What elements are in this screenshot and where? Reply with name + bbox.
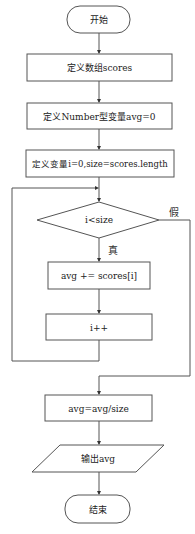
arrowhead	[97, 146, 101, 150]
node-define-vars: 定义变量i=0,size=scores.length	[26, 150, 174, 177]
arrowhead	[97, 391, 101, 395]
node-end: 结束	[65, 495, 130, 523]
flowchart: 开始 定义数组scores 定义Number型变量avg=0 定义变量i=0,s…	[0, 0, 195, 534]
start-label: 开始	[90, 14, 108, 25]
arrowhead	[95, 186, 99, 190]
arrowhead	[97, 491, 101, 495]
arrowhead	[97, 198, 101, 202]
node-output: 输出avg	[32, 445, 164, 472]
node-define-array: 定义数组scores	[27, 54, 172, 81]
output-label: 输出avg	[81, 453, 115, 464]
define-array-label: 定义数组scores	[67, 62, 133, 73]
arrowhead	[97, 441, 101, 445]
arrowhead	[97, 50, 101, 54]
compute-avg-label: avg=avg/size	[68, 404, 129, 414]
node-accumulate: avg += scores[i]	[48, 262, 150, 289]
define-avg-label: 定义Number型变量avg=0	[43, 111, 155, 122]
condition-label: i<size	[85, 215, 113, 225]
arrowhead	[97, 310, 101, 314]
node-compute-avg: avg=avg/size	[45, 395, 152, 421]
end-label: 结束	[89, 504, 107, 515]
arrowhead	[97, 258, 101, 262]
node-condition: i<size	[37, 202, 159, 238]
false-label: 假	[169, 206, 179, 218]
true-label: 真	[108, 244, 118, 256]
increment-label: i++	[90, 323, 108, 333]
arrowhead	[97, 99, 101, 103]
node-increment: i++	[46, 314, 152, 340]
node-define-avg: 定义Number型变量avg=0	[27, 103, 172, 129]
node-start: 开始	[67, 6, 130, 33]
define-vars-label: 定义变量i=0,size=scores.length	[32, 159, 168, 169]
accumulate-label: avg += scores[i]	[61, 271, 137, 281]
